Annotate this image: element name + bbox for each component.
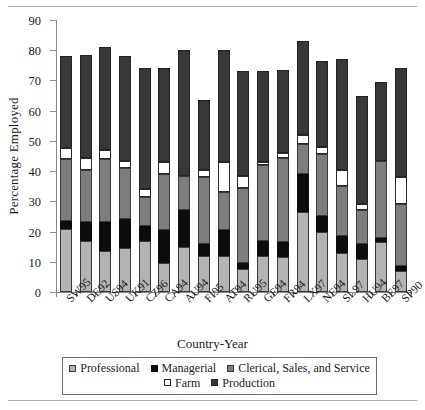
bar-FR94 xyxy=(277,20,289,292)
y-tick: 20 xyxy=(50,232,56,233)
bar-segment-managerial xyxy=(178,210,190,246)
bar-segment-managerial xyxy=(218,230,230,256)
y-tick-label: 70 xyxy=(29,74,42,89)
bar-segment-production xyxy=(336,59,348,169)
bar-segment-production xyxy=(158,68,170,162)
bar-segment-production xyxy=(139,68,151,189)
bar-segment-professional xyxy=(60,229,72,292)
bar-CZ96 xyxy=(139,20,151,292)
bar-segment-farm xyxy=(119,161,131,169)
bar-segment-farm xyxy=(60,148,72,159)
bar-segment-managerial xyxy=(316,216,328,231)
legend-item-professional: Professional xyxy=(69,361,139,376)
bar-segment-managerial xyxy=(277,242,289,257)
y-tick: 10 xyxy=(50,262,56,263)
bar-segment-farm xyxy=(237,176,249,188)
y-tick-label: 30 xyxy=(29,195,42,210)
bar-segment-production xyxy=(375,82,387,161)
bar-segment-farm xyxy=(395,177,407,204)
bar-AT94 xyxy=(218,20,230,292)
bar-segment-managerial xyxy=(356,244,368,259)
y-axis-title: Percentage Employed xyxy=(5,20,23,292)
y-tick: 40 xyxy=(50,171,56,172)
bar-segment-production xyxy=(178,50,190,175)
bar-segment-clerical xyxy=(139,197,151,226)
y-tick: 80 xyxy=(50,50,56,51)
bar-segment-farm xyxy=(297,135,309,144)
bar-segment-production xyxy=(277,70,289,153)
bar-segment-managerial xyxy=(158,230,170,263)
bar-segment-clerical xyxy=(80,170,92,223)
bar-segment-clerical xyxy=(356,210,368,243)
bar-segment-production xyxy=(316,61,328,147)
bar-segment-production xyxy=(60,56,72,148)
y-axis-title-text: Percentage Employed xyxy=(6,97,22,215)
bar-NE94 xyxy=(316,20,328,292)
chart-legend: ProfessionalManagerialClerical, Sales, a… xyxy=(62,357,377,395)
bar-segment-clerical xyxy=(237,188,249,264)
bar-segment-production xyxy=(356,96,368,205)
y-tick: 60 xyxy=(50,111,56,112)
bar-segment-farm xyxy=(277,153,289,158)
bar-segment-clerical xyxy=(178,176,190,211)
bar-SW95 xyxy=(60,20,72,292)
bar-segment-clerical xyxy=(218,192,230,230)
bar-segment-farm xyxy=(80,158,92,170)
bar-segment-clerical xyxy=(336,186,348,236)
legend-row-2: FarmProduction xyxy=(67,376,372,391)
bar-segment-clerical xyxy=(257,165,269,241)
bar-segment-production xyxy=(99,47,111,150)
bar-CA94 xyxy=(158,20,170,292)
legend-row-1: ProfessionalManagerialClerical, Sales, a… xyxy=(67,361,372,376)
bar-segment-managerial xyxy=(119,219,131,248)
x-axis-labels: SW95DE92US94UK91CZ96CA94AU94FI95AT94RU95… xyxy=(56,292,411,338)
y-tick-label: 80 xyxy=(29,44,42,59)
bar-segment-clerical xyxy=(119,168,131,219)
bar-segment-clerical xyxy=(395,204,407,266)
y-tick-label: 40 xyxy=(29,165,42,180)
bar-segment-production xyxy=(119,56,131,160)
legend-label: Farm xyxy=(175,376,200,391)
bar-segment-production xyxy=(198,100,210,170)
bar-GE94 xyxy=(257,20,269,292)
bar-segment-managerial xyxy=(99,222,111,251)
bar-segment-farm xyxy=(356,204,368,210)
bar-segment-production xyxy=(218,50,230,162)
y-tick-label: 90 xyxy=(29,14,42,29)
bar-segment-farm xyxy=(316,147,328,155)
bar-segment-clerical xyxy=(277,158,289,243)
y-tick-label: 50 xyxy=(29,134,42,149)
bar-LX97 xyxy=(297,20,309,292)
bar-BE97 xyxy=(375,20,387,292)
bar-segment-production xyxy=(395,68,407,177)
bar-segment-managerial xyxy=(80,222,92,240)
legend-item-managerial: Managerial xyxy=(151,361,217,376)
bar-segment-farm xyxy=(139,189,151,197)
bar-segment-managerial xyxy=(395,266,407,271)
bar-segment-managerial xyxy=(297,174,309,212)
y-tick: 90 xyxy=(50,20,56,21)
bar-US94 xyxy=(99,20,111,292)
bottom-rule xyxy=(8,400,417,401)
bar-segment-production xyxy=(237,71,249,175)
legend-swatch-managerial-icon xyxy=(151,365,158,372)
bar-segment-clerical xyxy=(60,159,72,221)
bar-segment-production xyxy=(80,55,92,158)
bar-segment-farm xyxy=(198,170,210,178)
legend-item-production: Production xyxy=(211,376,275,391)
legend-swatch-farm-icon xyxy=(164,379,171,386)
legend-label: Managerial xyxy=(162,361,217,376)
legend-label: Clerical, Sales, and Service xyxy=(238,361,370,376)
bar-segment-production xyxy=(257,71,269,162)
bar-segment-clerical xyxy=(297,144,309,174)
bar-segment-clerical xyxy=(158,174,170,230)
bar-segment-farm xyxy=(336,170,348,187)
y-tick: 50 xyxy=(50,141,56,142)
bar-segment-farm xyxy=(99,150,111,159)
legend-swatch-clerical-icon xyxy=(227,365,234,372)
bar-segment-clerical xyxy=(198,177,210,243)
y-tick-label: 0 xyxy=(35,286,41,301)
bar-segment-farm xyxy=(257,162,269,165)
bar-HU94 xyxy=(356,20,368,292)
bar-SL97 xyxy=(336,20,348,292)
